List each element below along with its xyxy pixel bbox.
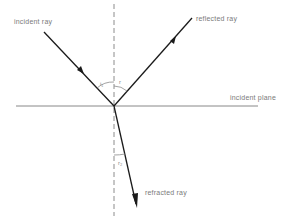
incident-ray-label: incident ray	[14, 18, 52, 26]
ray-diagram: incident ray reflected ray incident plan…	[0, 0, 296, 220]
incidence-angle-label: i₁	[100, 81, 103, 87]
reflection-angle-arc	[114, 86, 127, 91]
refraction-angle-label: r₂	[118, 160, 123, 166]
refraction-angle-arc	[114, 154, 125, 155]
incident-plane-label: incident plane	[230, 94, 276, 102]
refracted-ray-label: refracted ray	[145, 189, 187, 197]
reflected-arrow-icon	[170, 36, 176, 44]
reflected-ray-label: reflected ray	[196, 15, 237, 23]
reflected-ray-line	[114, 18, 192, 106]
refracted-arrow-icon	[132, 193, 138, 208]
reflection-angle-label: r	[119, 79, 121, 85]
